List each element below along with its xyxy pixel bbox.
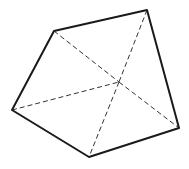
polyhedron-diagram <box>0 0 189 169</box>
hidden-edge-o-c <box>119 82 179 128</box>
hidden-edge-e-o <box>12 82 119 110</box>
outer-outline <box>12 10 179 157</box>
hidden-edge-o-d <box>89 82 119 157</box>
hidden-edge-b-o <box>119 10 147 82</box>
hidden-edge-a-o <box>54 31 119 82</box>
